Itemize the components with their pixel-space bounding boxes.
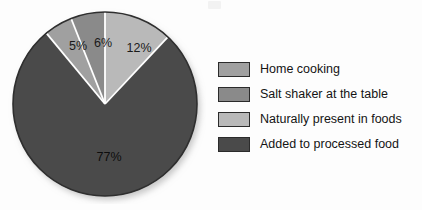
legend-item[interactable]: Added to processed food [218, 132, 418, 157]
legend-item-label: Salt shaker at the table [260, 88, 388, 101]
legend-swatch [218, 87, 250, 102]
legend-item-label: Home cooking [260, 63, 340, 76]
legend-item-label: Added to processed food [260, 138, 399, 151]
pie-slice-label: 6% [94, 36, 112, 50]
legend-item[interactable]: Home cooking [218, 57, 418, 82]
pie-slice-label: 77% [96, 150, 121, 164]
legend-swatch [218, 137, 250, 152]
legend-item-label: Naturally present in foods [260, 113, 402, 126]
legend-item[interactable]: Salt shaker at the table [218, 82, 418, 107]
legend-swatch [218, 62, 250, 77]
legend-item[interactable]: Naturally present in foods [218, 107, 418, 132]
pie-chart: 12%77%5%6% [8, 6, 206, 204]
legend-swatch [218, 112, 250, 127]
pie-slice-label: 5% [69, 39, 87, 53]
chart-legend: Home cookingSalt shaker at the tableNatu… [218, 57, 418, 157]
pie-svg: 12%77%5%6% [8, 6, 206, 204]
scan-artifact [208, 1, 221, 9]
pie-slice-label: 12% [126, 41, 151, 55]
pie-chart-figure: 12%77%5%6% Home cookingSalt shaker at th… [0, 0, 422, 210]
